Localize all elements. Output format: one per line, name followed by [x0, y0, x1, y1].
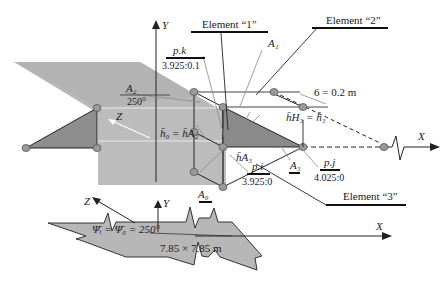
point-j-label: p.j — [324, 157, 335, 168]
point-k-label: p.k — [173, 45, 186, 56]
bottom-plate — [48, 207, 262, 270]
point-i-value: 3.925:0 — [242, 177, 272, 187]
x-arrow-icon — [430, 143, 440, 151]
element-2-label: Element “2” — [326, 15, 381, 26]
diagram-canvas: Y X Z Element “1” Element “2” Element “3… — [0, 0, 442, 284]
x-axis-label: X — [418, 131, 425, 142]
ha3-label: h̄A₃ — [236, 152, 252, 163]
plate-size: 7.85 × 7.85 m — [160, 243, 222, 254]
bottom-x-label: X — [376, 221, 383, 232]
point-k-value: 3.925:0.1 — [162, 61, 200, 71]
z-axis-label: Z — [116, 111, 122, 122]
area-a2-angle: 250° — [127, 97, 146, 107]
left-triangle — [26, 108, 97, 148]
y-axis-label: Y — [162, 20, 168, 31]
area-a3-label: A₃ — [290, 160, 301, 171]
bottom-y-label: Y — [163, 198, 169, 209]
y-arrow-icon — [152, 20, 160, 29]
point-j-value: 4.025:0 — [314, 173, 344, 183]
psi-equation: Ψ̄ᵢ = Ψ̄₀ = 250° — [92, 224, 160, 235]
point-i-label: p.i — [252, 161, 263, 172]
thickness-annotation: 6 = 0.2 m — [314, 87, 356, 98]
area-a2-label: A₂ — [126, 83, 137, 94]
h0-equation: h̄₀ = h̄A₂ — [160, 128, 198, 139]
area-a0-label: A₀ — [198, 189, 209, 200]
element-3-label: Element “3” — [343, 191, 398, 202]
area-a1-label: A₁ — [268, 38, 279, 49]
element-1-label: Element “1” — [202, 19, 257, 30]
bottom-z-label: Z — [84, 196, 90, 207]
hh3-equation: h̄H₃ = h̄₃ — [286, 112, 326, 123]
